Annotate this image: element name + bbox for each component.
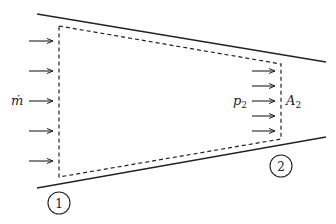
outlet-arrows — [252, 71, 275, 131]
mass-flow-label: ṁ — [11, 93, 23, 108]
top-wall — [37, 14, 326, 62]
station-2-marker: 2 — [270, 155, 292, 177]
nozzle-diagram: ṁ p2 A2 1 2 — [0, 0, 336, 224]
exit-area-label: A2 — [285, 93, 301, 110]
exit-pressure-label: p2 — [233, 93, 247, 110]
inlet-arrows — [29, 41, 53, 161]
station-2-label: 2 — [277, 160, 285, 174]
station-1-label: 1 — [55, 197, 63, 211]
station-1-marker: 1 — [48, 192, 70, 214]
